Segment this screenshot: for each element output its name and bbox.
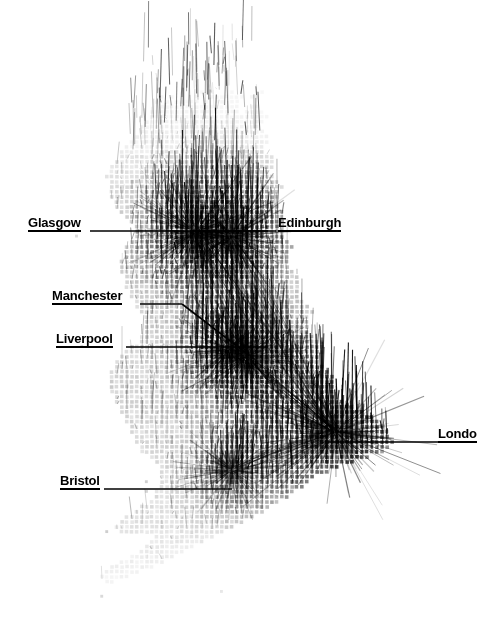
city-label-edinburgh-text: Edinburgh xyxy=(278,216,341,232)
city-label-manchester: Manchester xyxy=(52,289,122,305)
uk-density-map-figure: Glasgow Edinburgh Manchester Liverpool L… xyxy=(0,0,480,626)
city-label-london-text: Londo xyxy=(438,427,477,443)
city-label-glasgow: Glasgow xyxy=(28,216,81,232)
city-label-glasgow-text: Glasgow xyxy=(28,216,81,232)
city-label-london: Londo xyxy=(438,427,477,443)
city-label-liverpool: Liverpool xyxy=(56,332,113,348)
city-label-liverpool-text: Liverpool xyxy=(56,332,113,348)
map-density-canvas xyxy=(0,0,480,626)
city-label-bristol: Bristol xyxy=(60,474,100,490)
city-label-bristol-text: Bristol xyxy=(60,474,100,490)
city-label-manchester-text: Manchester xyxy=(52,289,122,305)
city-label-edinburgh: Edinburgh xyxy=(278,216,341,232)
